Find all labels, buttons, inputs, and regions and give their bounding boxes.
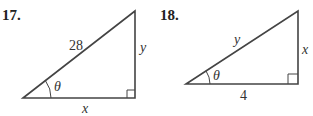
- problem-number: 18.: [160, 7, 179, 23]
- triangle-figures: 17. θ 28 y x 18. θ y x 4: [0, 0, 313, 116]
- right-triangle: [186, 11, 298, 84]
- adjacent-side-label: 4: [240, 88, 247, 103]
- angle-arc: [206, 71, 210, 84]
- adjacent-side-label: x: [81, 101, 89, 116]
- hypotenuse-label: y: [232, 32, 241, 47]
- angle-arc: [46, 81, 52, 98]
- right-angle-marker: [127, 90, 135, 98]
- opposite-side-label: x: [301, 42, 309, 57]
- right-triangle: [23, 11, 135, 98]
- angle-label: θ: [54, 79, 61, 94]
- problem-18: 18. θ y x 4: [160, 7, 309, 103]
- opposite-side-label: y: [138, 40, 147, 55]
- angle-label: θ: [213, 68, 220, 83]
- hypotenuse-label: 28: [69, 38, 83, 53]
- right-angle-marker: [288, 74, 298, 84]
- problem-number: 17.: [2, 7, 21, 23]
- problem-17: 17. θ 28 y x: [2, 7, 147, 116]
